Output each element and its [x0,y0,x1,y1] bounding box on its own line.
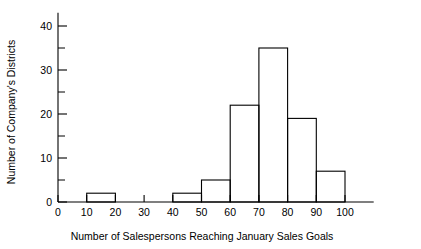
x-tick-label: 50 [196,206,208,218]
y-axis-title: Number of Company's Districts [5,40,17,184]
y-tick-label: 30 [40,64,52,76]
chart-canvas: 0102030405060708090100 010203040 Number … [0,0,421,249]
x-axis-title: Number of Salespersons Reaching January … [71,230,334,242]
x-tick-label: 30 [138,206,150,218]
y-tick-label: 40 [40,20,52,32]
y-tick-label: 10 [40,152,52,164]
histogram-chart: 0102030405060708090100 010203040 Number … [0,0,421,249]
chart-background [0,0,421,249]
x-tick-label: 40 [167,206,179,218]
x-tick-label: 20 [110,206,122,218]
y-tick-label: 0 [46,196,52,208]
y-tick-label: 20 [40,108,52,120]
x-tick-label: 100 [336,206,354,218]
x-tick-label: 60 [224,206,236,218]
x-tick-label: 70 [253,206,265,218]
x-tick-label: 0 [55,206,61,218]
x-tick-label: 10 [81,206,93,218]
x-tick-label: 80 [282,206,294,218]
x-tick-label: 90 [310,206,322,218]
